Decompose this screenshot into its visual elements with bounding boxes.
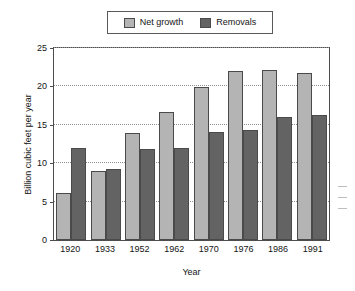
bar-net-growth-1976 [228, 71, 243, 240]
x-tick-label-1952: 1952 [122, 245, 157, 254]
y-tick-label-15: 15 [37, 120, 47, 129]
x-tick-label-1933: 1933 [88, 245, 123, 254]
y-tick-label-5: 5 [42, 197, 47, 206]
bar-group-1920 [54, 48, 88, 240]
x-tick-label-1976: 1976 [226, 245, 261, 254]
bar-group-1933 [88, 48, 122, 240]
bar-removals-1991 [312, 115, 327, 240]
y-axis-title: Billion cubic feet per year [24, 55, 33, 235]
legend-item-removals: Removals [200, 18, 256, 28]
bar-net-growth-1970 [194, 87, 209, 240]
bar-group-1970 [192, 48, 226, 240]
x-tick-label-1986: 1986 [261, 245, 296, 254]
plot-area: 0510152025 [53, 47, 330, 241]
chart-legend: Net growth Removals [107, 11, 273, 34]
bar-net-growth-1986 [262, 70, 277, 240]
legend-swatch-net-growth [124, 18, 135, 28]
bar-net-growth-1962 [159, 112, 174, 240]
scan-artifact [338, 186, 347, 220]
x-tick-label-1991: 1991 [295, 245, 330, 254]
y-tick-label-10: 10 [37, 159, 47, 168]
bar-net-growth-1920 [56, 193, 71, 240]
bar-group-1952 [123, 48, 157, 240]
bar-net-growth-1952 [125, 133, 140, 240]
x-tick-label-1962: 1962 [157, 245, 192, 254]
bar-net-growth-1991 [297, 73, 312, 240]
bar-groups [54, 48, 329, 240]
bar-removals-1933 [106, 169, 121, 240]
x-axis-title: Year [53, 268, 330, 277]
x-axis-tick-labels: 19201933195219621970197619861991 [53, 245, 330, 254]
bar-removals-1952 [140, 149, 155, 240]
bar-net-growth-1933 [91, 171, 106, 240]
legend-swatch-removals [200, 18, 211, 28]
y-tick-label-20: 20 [37, 82, 47, 91]
y-tick-label-0: 0 [42, 236, 47, 245]
y-tick-mark-0 [50, 240, 54, 241]
legend-label-removals: Removals [216, 18, 256, 27]
bar-removals-1962 [174, 148, 189, 240]
bar-chart: Net growth Removals Billion cubic feet p… [0, 0, 355, 291]
bar-group-1976 [226, 48, 260, 240]
bar-removals-1976 [243, 130, 258, 240]
x-tick-label-1970: 1970 [192, 245, 227, 254]
bar-group-1991 [295, 48, 329, 240]
bar-removals-1920 [71, 148, 86, 240]
legend-item-net-growth: Net growth [124, 18, 184, 28]
x-tick-label-1920: 1920 [53, 245, 88, 254]
bar-group-1962 [157, 48, 191, 240]
bar-removals-1986 [277, 117, 292, 240]
bar-group-1986 [260, 48, 294, 240]
y-tick-label-25: 25 [37, 44, 47, 53]
bar-removals-1970 [209, 132, 224, 240]
legend-label-net-growth: Net growth [140, 18, 184, 27]
